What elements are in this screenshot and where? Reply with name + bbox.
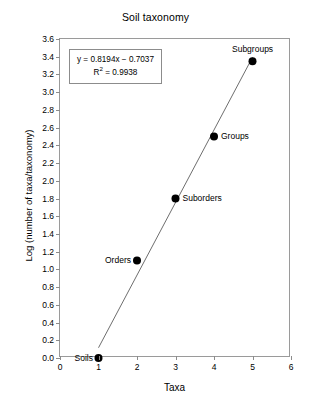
trendline-equation-box: y = 0.8194x − 0.7037 R2 = 0.9938 bbox=[69, 49, 162, 84]
data-point bbox=[172, 195, 180, 203]
y-tick-label: 1.4 bbox=[42, 230, 54, 239]
x-tick-label: 5 bbox=[250, 363, 255, 372]
x-tick-mark bbox=[137, 356, 138, 360]
x-tick-mark bbox=[60, 356, 61, 360]
y-tick-label: 0.4 bbox=[42, 318, 54, 327]
y-tick-mark bbox=[56, 181, 60, 182]
y-tick-label: 1.8 bbox=[42, 194, 54, 203]
plot-canvas bbox=[60, 39, 291, 358]
y-tick-mark bbox=[56, 234, 60, 235]
y-tick-label: 0.0 bbox=[42, 354, 54, 363]
data-points-group bbox=[95, 57, 257, 362]
y-tick-label: 2.4 bbox=[42, 141, 54, 150]
data-point bbox=[249, 57, 257, 65]
y-tick-label: 1.2 bbox=[42, 247, 54, 256]
y-tick-label: 3.6 bbox=[42, 35, 54, 44]
x-tick-label: 4 bbox=[212, 363, 217, 372]
y-tick-label: 0.2 bbox=[42, 336, 54, 345]
y-tick-mark bbox=[56, 216, 60, 217]
x-tick-mark bbox=[253, 356, 254, 360]
y-tick-mark bbox=[56, 305, 60, 306]
y-tick-label: 3.4 bbox=[42, 52, 54, 61]
r-squared-text: = 0.9938 bbox=[103, 68, 137, 77]
data-point-label: Orders bbox=[105, 256, 131, 265]
data-point bbox=[210, 132, 218, 140]
y-tick-mark bbox=[56, 287, 60, 288]
data-point-label: Soils bbox=[75, 354, 93, 363]
x-tick-mark bbox=[291, 356, 292, 360]
y-tick-mark bbox=[56, 110, 60, 111]
x-tick-mark bbox=[176, 356, 177, 360]
x-tick-label: 0 bbox=[58, 363, 63, 372]
x-tick-label: 6 bbox=[289, 363, 294, 372]
y-tick-mark bbox=[56, 163, 60, 164]
x-tick-mark bbox=[99, 356, 100, 360]
plot-area: 0.00.20.40.60.81.01.21.41.61.82.02.22.42… bbox=[59, 38, 290, 357]
x-axis-label: Taxa bbox=[59, 382, 290, 393]
y-tick-mark bbox=[56, 92, 60, 93]
y-tick-label: 3.0 bbox=[42, 88, 54, 97]
x-tick-label: 1 bbox=[96, 363, 101, 372]
x-tick-label: 3 bbox=[173, 363, 178, 372]
x-tick-mark bbox=[214, 356, 215, 360]
y-tick-mark bbox=[56, 252, 60, 253]
y-tick-mark bbox=[56, 74, 60, 75]
y-tick-label: 2.0 bbox=[42, 177, 54, 186]
y-tick-mark bbox=[56, 57, 60, 58]
data-point-label: Groups bbox=[221, 132, 249, 141]
y-axis-label: Log (number of taxa/taxonomy) bbox=[23, 86, 34, 306]
y-tick-mark bbox=[56, 323, 60, 324]
y-tick-label: 3.2 bbox=[42, 70, 54, 79]
chart-figure: Soil taxonomy 0.00.20.40.60.81.01.21.41.… bbox=[0, 0, 311, 413]
y-tick-label: 2.8 bbox=[42, 106, 54, 115]
data-point-label: Subgroups bbox=[232, 45, 273, 54]
y-tick-mark bbox=[56, 128, 60, 129]
trendline bbox=[99, 57, 253, 347]
r-squared-value: R2 = 0.9938 bbox=[77, 65, 154, 78]
y-tick-mark bbox=[56, 340, 60, 341]
chart-title: Soil taxonomy bbox=[0, 11, 311, 23]
y-tick-mark bbox=[56, 145, 60, 146]
y-tick-mark bbox=[56, 269, 60, 270]
y-tick-label: 2.6 bbox=[42, 123, 54, 132]
y-tick-mark bbox=[56, 39, 60, 40]
y-tick-mark bbox=[56, 199, 60, 200]
y-tick-label: 1.0 bbox=[42, 265, 54, 274]
x-tick-label: 2 bbox=[135, 363, 140, 372]
data-point-label: Suborders bbox=[183, 194, 222, 203]
regression-equation: y = 0.8194x − 0.7037 bbox=[77, 54, 154, 65]
y-tick-label: 1.6 bbox=[42, 212, 54, 221]
trendline-group bbox=[99, 57, 253, 347]
y-tick-label: 0.6 bbox=[42, 301, 54, 310]
y-tick-label: 0.8 bbox=[42, 283, 54, 292]
data-point bbox=[133, 257, 141, 265]
y-tick-label: 2.2 bbox=[42, 159, 54, 168]
